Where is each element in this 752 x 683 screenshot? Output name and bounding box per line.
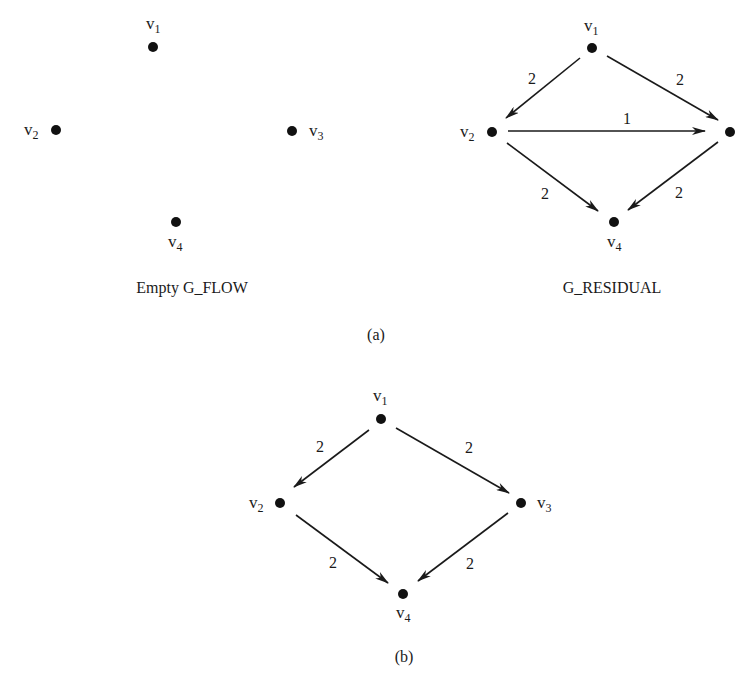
node-label-v1: v1 [584,16,599,38]
weight-v3-v4: 2 [466,555,474,572]
weight-v2-v3: 1 [623,110,631,127]
node-label-v2: v2 [24,120,39,142]
node-v1 [587,43,597,53]
caption-empty-flow: Empty G_FLOW [136,279,248,297]
edge-v3-v4 [418,513,508,581]
node-label-v3: v3 [309,121,324,143]
edge-v1-v3 [396,428,509,493]
graph-residual: 2 2 1 2 2 v1 v2 v4 G_RESIDUAL [460,16,735,296]
node-label-v4: v4 [396,603,411,625]
edge-v1-v2 [294,430,369,487]
weight-v3-v4: 2 [675,184,683,201]
node-label-v4: v4 [168,232,183,254]
node-v2 [275,498,285,508]
edge-v3-v4 [628,142,718,210]
node-v1 [148,42,158,52]
node-v1 [376,414,386,424]
panel-a-label: (a) [367,326,385,344]
node-v3 [516,498,526,508]
node-label-v4: v4 [607,232,622,254]
node-v3 [725,127,735,137]
graph-empty-flow: v1 v2 v3 v4 Empty G_FLOW [24,14,324,297]
node-v4 [171,217,181,227]
node-label-v2: v2 [249,493,264,515]
weight-v1-v3: 2 [465,439,473,456]
node-v2 [487,127,497,137]
node-v2 [51,125,61,135]
node-label-v3: v3 [537,493,552,515]
node-v3 [287,126,297,136]
node-label-v1: v1 [373,386,388,408]
edge-v2-v4 [296,515,388,583]
caption-residual: G_RESIDUAL [563,279,662,296]
edge-v1-v2 [506,58,580,118]
figure-canvas: v1 v2 v3 v4 Empty G_FLOW 2 2 1 2 2 v1 v2… [0,0,752,683]
node-v4 [398,589,408,599]
edge-v2-v4 [507,143,598,211]
graph-panel-b: 2 2 2 2 v1 v2 v3 v4 [249,386,552,625]
node-label-v2: v2 [460,122,475,144]
panel-b-label: (b) [395,648,414,666]
weight-v1-v2: 2 [316,438,324,455]
weight-v1-v3: 2 [676,71,684,88]
weight-v2-v4: 2 [329,554,337,571]
node-label-v1: v1 [146,14,161,36]
node-v4 [609,217,619,227]
weight-v1-v2: 2 [528,70,536,87]
weight-v2-v4: 2 [541,185,549,202]
